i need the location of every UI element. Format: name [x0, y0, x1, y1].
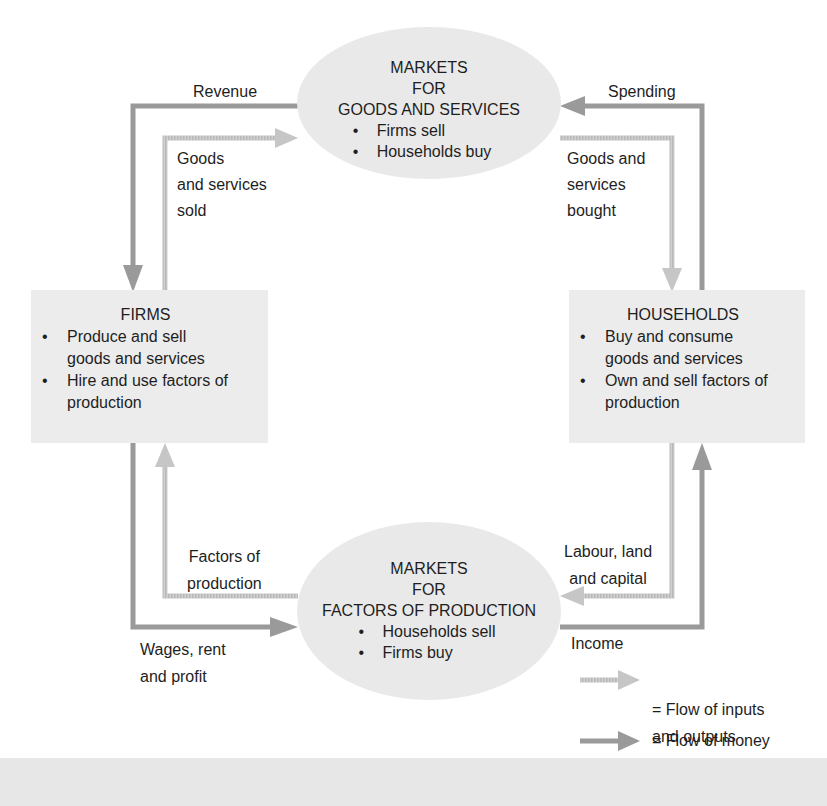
- factor-market-title-2: FOR: [297, 579, 561, 600]
- households-bullets: Buy and consume goods and services Own a…: [569, 326, 797, 414]
- goods-market-bullet: Firms sell: [347, 120, 492, 141]
- goods-market-title-2: FOR: [297, 78, 561, 99]
- goods-market-title-3: GOODS AND SERVICES: [297, 99, 561, 120]
- goods-market-bullets: Firms sell Households buy: [347, 120, 492, 162]
- legend-money-text: = Flow of money: [652, 732, 770, 749]
- factor-market-title-3: FACTORS OF PRODUCTION: [297, 600, 561, 621]
- goods-sold-label: Goods and services sold: [177, 146, 267, 224]
- wages-rent-profit-label: Wages, rent and profit: [140, 636, 226, 690]
- factor-market-bullet: Firms buy: [353, 642, 496, 663]
- households-title: HOUSEHOLDS: [569, 304, 797, 326]
- revenue-label: Revenue: [193, 81, 257, 103]
- goods-bought-label: Goods and services bought: [567, 146, 645, 224]
- legend-money: = Flow of money: [652, 730, 770, 752]
- households-bullet: Buy and consume goods and services: [569, 326, 765, 370]
- firms-bullet: Hire and use factors of production: [31, 370, 237, 414]
- goods-market-ellipse: MARKETS FOR GOODS AND SERVICES Firms sel…: [297, 27, 561, 179]
- factor-market-bullets: Households sell Firms buy: [353, 621, 496, 663]
- factor-market-bullet: Households sell: [353, 621, 496, 642]
- income-label: Income: [571, 633, 623, 655]
- firms-bullet: Produce and sell goods and services: [31, 326, 217, 370]
- wages-arrow: [133, 443, 275, 627]
- bottom-band: [0, 758, 827, 806]
- firms-box: FIRMS Produce and sell goods and service…: [31, 290, 268, 443]
- labour-land-capital-label: Labour, land and capital: [564, 538, 652, 592]
- goods-market-title-1: MARKETS: [297, 57, 561, 78]
- factor-market-ellipse: MARKETS FOR FACTORS OF PRODUCTION Househ…: [297, 522, 561, 700]
- factors-of-production-label: Factors of production: [187, 543, 262, 597]
- firms-bullets: Produce and sell goods and services Hire…: [31, 326, 260, 414]
- firms-title: FIRMS: [31, 304, 260, 326]
- spending-label: Spending: [608, 81, 676, 103]
- goods-market-bullet: Households buy: [347, 141, 492, 162]
- households-box: HOUSEHOLDS Buy and consume goods and ser…: [569, 290, 805, 443]
- circular-flow-diagram: MARKETS FOR GOODS AND SERVICES Firms sel…: [0, 0, 827, 806]
- legend-arrows: [580, 670, 640, 751]
- households-bullet: Own and sell factors of production: [569, 370, 775, 414]
- factor-market-title-1: MARKETS: [297, 558, 561, 579]
